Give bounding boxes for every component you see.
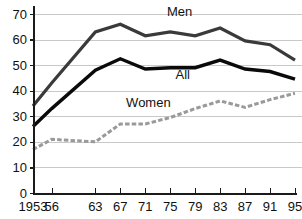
series-labels: MenAllWomen	[126, 4, 192, 110]
x-axis-tick-label: 79	[188, 199, 202, 214]
x-axis-tick-label: 56	[44, 199, 58, 214]
series-group	[33, 24, 295, 149]
y-axis-tick-label: 30	[13, 109, 27, 124]
y-axis-tick-label: 20	[13, 134, 27, 149]
x-axis-tick-label: 95	[288, 199, 302, 214]
y-axis-tick-label: 70	[13, 7, 27, 22]
y-axis-tick-label: 10	[13, 160, 27, 175]
y-axis-tick-label: 50	[13, 58, 27, 73]
x-axis-tick-label: 87	[238, 199, 252, 214]
line-chart: 010203040506070 195356636771757983879195…	[0, 0, 302, 219]
x-axis-tick-label: 91	[263, 199, 277, 214]
x-axis-tick-label: 67	[113, 199, 127, 214]
x-axis-tick-label: 83	[213, 199, 227, 214]
chart-container: 010203040506070 195356636771757983879195…	[0, 0, 302, 219]
series-label-men: Men	[167, 4, 192, 19]
y-axis-tick-label: 40	[13, 83, 27, 98]
x-axis-labels: 195356636771757983879195	[19, 199, 302, 214]
y-axis-tick-label: 60	[13, 32, 27, 47]
series-label-women: Women	[126, 95, 171, 110]
series-label-all: All	[175, 67, 190, 82]
x-axis-tick-label: 63	[88, 199, 102, 214]
x-axis-tick-label: 1953	[19, 199, 48, 214]
y-axis-labels: 010203040506070	[13, 7, 27, 201]
x-axis-tick-label: 71	[138, 199, 152, 214]
x-axis-tick-label: 75	[163, 199, 177, 214]
